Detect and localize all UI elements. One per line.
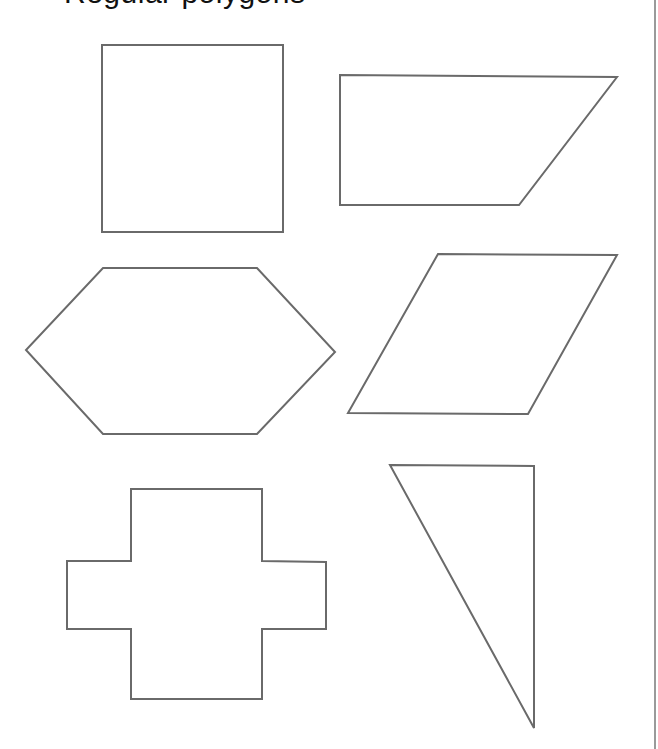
hexagon-shape xyxy=(26,268,335,434)
square-shape xyxy=(102,45,283,232)
rhombus-shape xyxy=(348,254,617,414)
right-triangle-shape xyxy=(390,465,534,728)
page-edge-rule xyxy=(654,0,656,749)
trapezoid-shape xyxy=(340,75,617,205)
cross-shape xyxy=(67,489,326,699)
shapes-canvas xyxy=(0,0,658,749)
